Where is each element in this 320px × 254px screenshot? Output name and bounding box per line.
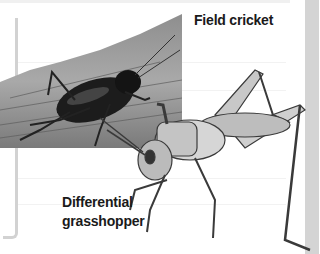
grasshopper-label-line1: Differential — [62, 193, 145, 212]
field-cricket-label: Field cricket — [194, 11, 273, 30]
grasshopper-label-line2: grasshopper — [62, 212, 145, 231]
differential-grasshopper-label: Differential grasshopper — [62, 193, 145, 231]
